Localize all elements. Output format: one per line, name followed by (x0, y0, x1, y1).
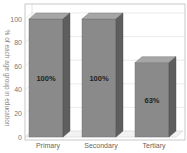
bar-value-label: 63% (144, 96, 159, 105)
bar-chart: % of each age group in education 0204060… (0, 0, 187, 153)
y-tick-label: 80 (14, 39, 22, 46)
bar-primary: 100% (29, 13, 70, 137)
bar-value-label: 100% (89, 74, 109, 83)
bar-side (63, 13, 70, 137)
y-axis-label-group: % of each age group in education (3, 30, 11, 127)
bar-secondary: 100% (82, 13, 123, 137)
y-tick-label: 60 (14, 63, 22, 70)
y-tick-label: 0 (18, 134, 22, 141)
y-tick-label: 100 (10, 16, 22, 23)
x-category-label: Secondary (84, 142, 118, 150)
x-category-label: Tertiary (143, 142, 166, 150)
y-axis-label: % of each age group in education (3, 30, 11, 127)
bar-side (116, 13, 123, 137)
y-tick-label: 20 (14, 110, 22, 117)
bar-value-label: 100% (36, 74, 56, 83)
x-category-label: Primary (36, 142, 61, 150)
y-tick-label: 40 (14, 86, 22, 93)
bar-side (169, 57, 176, 137)
x-axis-categories: PrimarySecondaryTertiary (36, 142, 166, 150)
y-axis-ticks: 020406080100 (10, 16, 22, 141)
bar-tertiary: 63% (135, 57, 176, 137)
